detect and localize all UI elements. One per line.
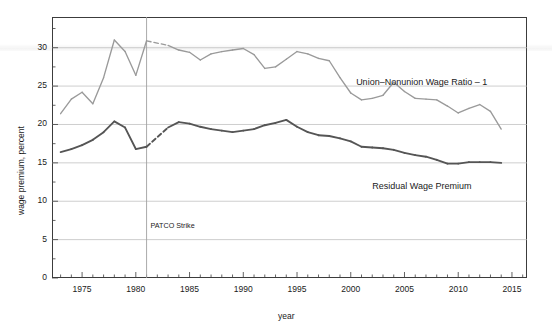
series-line-segment <box>329 136 340 138</box>
y-tick-label: 25 <box>25 80 47 90</box>
x-tick-label: 1990 <box>223 284 263 294</box>
series-line-segment <box>254 125 265 129</box>
series-line-segment <box>265 123 276 125</box>
series-line-segment <box>254 55 265 69</box>
series-line-segment <box>276 59 287 67</box>
series-line-segment <box>82 92 93 104</box>
series-line-segment <box>125 128 136 149</box>
series-line-segment <box>233 131 244 133</box>
x-tick-label: 2005 <box>384 284 424 294</box>
series-line-segment <box>372 148 383 149</box>
x-tick-label: 2000 <box>331 284 371 294</box>
series-line-segment <box>340 138 351 141</box>
series-line-segment <box>319 58 330 60</box>
x-tick-label: 1980 <box>116 284 156 294</box>
series-line-segment <box>211 129 222 131</box>
series-line-segment <box>458 162 469 164</box>
y-tick-label: 30 <box>25 42 47 52</box>
series-line-segment <box>490 162 501 163</box>
series-line-segment <box>211 52 222 54</box>
series-line-segment <box>104 40 115 78</box>
series-line-segment <box>362 98 373 100</box>
series-line-segment <box>276 120 287 123</box>
series-line-segment <box>168 122 179 127</box>
series-line-segment <box>329 61 340 78</box>
series-line-segment <box>71 145 82 149</box>
series-line-segment <box>415 98 426 99</box>
series-line-segment <box>297 127 308 132</box>
series-line-segment <box>61 149 72 152</box>
series-line-segment <box>426 157 437 160</box>
series-line-segment <box>351 141 362 146</box>
series-line-segment <box>458 108 469 113</box>
series-line-segment <box>372 95 383 98</box>
series-line-segment <box>362 147 373 148</box>
series-line-segment <box>340 78 351 93</box>
series-line-segment <box>447 106 458 113</box>
series-line-segment <box>243 48 254 54</box>
x-tick-label: 1985 <box>170 284 210 294</box>
series-line-segment <box>61 99 72 114</box>
series-line-segment <box>308 132 319 135</box>
series-line-segment <box>383 148 394 150</box>
series-label-residual-premium: Residual Wage Premium <box>372 181 471 191</box>
y-tick-label: 10 <box>25 195 47 205</box>
series-line-segment <box>243 129 254 131</box>
series-line-segment <box>82 140 93 145</box>
series-line-segment <box>200 54 211 60</box>
series-line-segment <box>404 153 415 155</box>
series-line-segment <box>114 40 125 52</box>
figure-root: wage premium, percent year 0510152025301… <box>0 0 552 336</box>
series-line-segment <box>200 127 211 129</box>
series-line-segment <box>93 132 104 140</box>
series-line-segment <box>104 121 115 132</box>
x-tick-label: 2015 <box>492 284 532 294</box>
series-line-segment <box>394 150 405 153</box>
series-line-segment <box>93 78 104 104</box>
y-tick-label: 0 <box>25 272 47 282</box>
series-line-segment <box>415 155 426 157</box>
series-line-segment <box>286 120 297 127</box>
series-line-segment <box>319 135 330 136</box>
series-line-segment <box>222 131 233 133</box>
series-line-segment <box>233 48 244 50</box>
series-line-segment <box>426 99 437 100</box>
series-line-segment <box>125 52 136 76</box>
series-line-segment <box>297 52 308 54</box>
series-line-segment <box>437 100 448 106</box>
annotation-patco-strike: PATCO Strike <box>151 221 195 230</box>
series-line-segment <box>308 54 319 59</box>
series-line-segment <box>351 93 362 100</box>
series-line-segment <box>265 67 276 69</box>
series-line-segment <box>179 122 190 124</box>
series-line-segment <box>147 128 168 147</box>
x-tick-label: 1975 <box>62 284 102 294</box>
series-line-segment <box>222 50 233 52</box>
series-label-union-ratio: Union–Nonunion Wage Ratio – 1 <box>356 77 487 87</box>
y-tick-label: 20 <box>25 118 47 128</box>
series-line-segment <box>469 105 480 109</box>
y-tick-label: 5 <box>25 234 47 244</box>
y-tick-label: 15 <box>25 157 47 167</box>
series-line-segment <box>71 92 82 99</box>
series-line-segment <box>190 52 201 60</box>
series-line-segment <box>404 91 415 98</box>
series-line-segment <box>147 41 168 46</box>
x-tick-label: 2010 <box>438 284 478 294</box>
series-line-segment <box>136 147 147 149</box>
series-line-segment <box>286 52 297 60</box>
series-line-segment <box>179 50 190 52</box>
series-line-segment <box>480 105 491 112</box>
x-tick-label: 1995 <box>277 284 317 294</box>
series-line-segment <box>490 111 501 129</box>
series-line-segment <box>136 41 147 76</box>
